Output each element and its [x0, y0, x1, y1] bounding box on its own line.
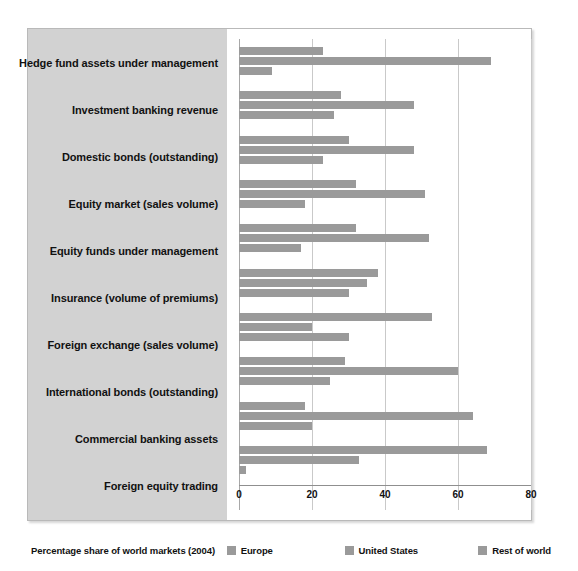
legend-label-united-states: United States [359, 545, 418, 556]
category-label: Hedge fund assets under management [19, 57, 220, 69]
bar-rest-of-world [239, 333, 349, 341]
bar-rest-of-world [239, 289, 349, 297]
legend-entry-rest-of-world: Rest of world [478, 545, 551, 556]
category-label-panel: Hedge fund assets under managementInvest… [28, 29, 227, 520]
legend-label-europe: Europe [241, 545, 273, 556]
x-axis-line [239, 485, 531, 486]
bar-group [239, 399, 531, 433]
bar-group [239, 266, 531, 300]
bar-europe [239, 136, 349, 144]
bar-europe [239, 91, 341, 99]
legend-caption: Percentage share of world markets (2004) [31, 545, 215, 556]
bar-group [239, 44, 531, 78]
gridline [531, 39, 532, 510]
category-label: Investment banking revenue [72, 104, 220, 116]
bar-groups [239, 39, 531, 482]
bar-united-states [239, 456, 359, 464]
bar-group [239, 88, 531, 122]
legend-entry-united-states: United States [345, 545, 418, 556]
legend-entry-europe: Europe [227, 545, 273, 556]
bar-group [239, 443, 531, 477]
legend-swatch-icon-europe [227, 546, 236, 555]
bar-united-states [239, 323, 312, 331]
bar-europe [239, 446, 487, 454]
bar-united-states [239, 146, 414, 154]
chart-figure: Hedge fund assets under managementInvest… [0, 0, 578, 571]
bar-europe [239, 313, 432, 321]
chart-frame: Hedge fund assets under managementInvest… [27, 28, 532, 521]
bar-rest-of-world [239, 67, 272, 75]
category-label: Equity market (sales volume) [69, 198, 220, 210]
bar-group [239, 310, 531, 344]
bar-europe [239, 180, 356, 188]
bar-united-states [239, 57, 491, 65]
bar-rest-of-world [239, 200, 305, 208]
x-tick-label: 20 [306, 489, 317, 500]
x-axis-tick-labels: 020406080 [239, 489, 531, 505]
bar-united-states [239, 367, 458, 375]
x-tick-label: 80 [525, 489, 536, 500]
bar-europe [239, 224, 356, 232]
category-label-list: Hedge fund assets under managementInvest… [28, 39, 220, 510]
bar-rest-of-world [239, 377, 330, 385]
legend-swatch-icon-united-states [345, 546, 354, 555]
bar-group [239, 221, 531, 255]
bar-group [239, 133, 531, 167]
plot-area: 020406080 [239, 39, 531, 510]
legend-label-rest-of-world: Rest of world [492, 545, 551, 556]
bar-group [239, 354, 531, 388]
bar-europe [239, 402, 305, 410]
category-label: Foreign equity trading [104, 480, 220, 492]
bar-rest-of-world [239, 422, 312, 430]
legend-swatch-icon-rest-of-world [478, 546, 487, 555]
bar-united-states [239, 234, 429, 242]
x-tick-label: 60 [452, 489, 463, 500]
bar-group [239, 177, 531, 211]
category-label: Domestic bonds (outstanding) [62, 151, 220, 163]
bar-united-states [239, 101, 414, 109]
chart-legend: Percentage share of world markets (2004)… [31, 541, 551, 559]
bar-europe [239, 47, 323, 55]
category-label: Foreign exchange (sales volume) [47, 339, 220, 351]
x-tick-label: 40 [379, 489, 390, 500]
bar-rest-of-world [239, 111, 334, 119]
bar-europe [239, 269, 378, 277]
bar-united-states [239, 412, 473, 420]
category-label: Equity funds under management [50, 245, 220, 257]
category-label: International bonds (outstanding) [46, 386, 220, 398]
bar-rest-of-world [239, 244, 301, 252]
bar-rest-of-world [239, 156, 323, 164]
category-label: Commercial banking assets [75, 433, 220, 445]
bar-united-states [239, 279, 367, 287]
bar-rest-of-world [239, 466, 246, 474]
bar-united-states [239, 190, 425, 198]
x-tick-label: 0 [236, 489, 242, 500]
bar-europe [239, 357, 345, 365]
category-label: Insurance (volume of premiums) [51, 292, 220, 304]
